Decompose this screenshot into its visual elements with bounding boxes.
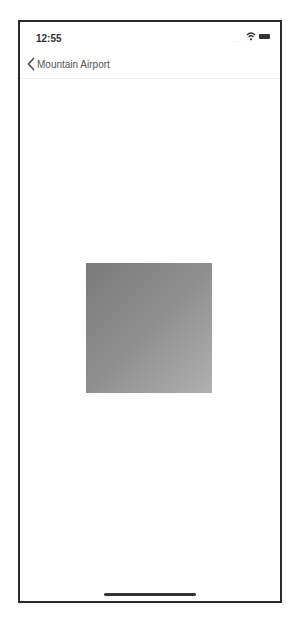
phone-screen: 12:55 .... Mountain Airport bbox=[18, 20, 282, 603]
signal-icon: .... bbox=[233, 37, 244, 43]
back-label: Mountain Airport bbox=[37, 59, 110, 70]
battery-icon bbox=[259, 34, 270, 39]
gradient-square bbox=[86, 263, 212, 393]
status-bar: 12:55 .... bbox=[20, 22, 280, 46]
wifi-icon bbox=[246, 32, 256, 41]
status-time: 12:55 bbox=[36, 33, 62, 44]
navigation-bar: Mountain Airport bbox=[20, 52, 280, 79]
back-button[interactable]: Mountain Airport bbox=[26, 57, 110, 71]
home-indicator[interactable] bbox=[104, 593, 196, 596]
chevron-left-icon bbox=[26, 57, 36, 71]
